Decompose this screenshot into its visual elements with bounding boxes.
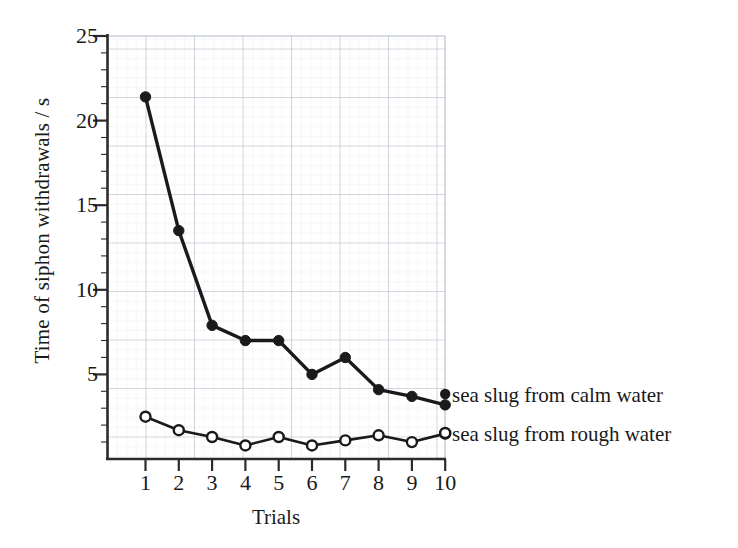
legend-entry-rough-water: sea slug from rough water [452,424,671,445]
y-axis-title: Time of siphon withdrawals / s [30,21,55,441]
x-tick-labels: 12345678910 [0,0,738,548]
legend-label-calm-water: sea slug from calm water [452,383,663,407]
chart-figure: 510152025 12345678910 Time of siphon wit… [0,0,738,548]
x-tick-label: 10 [423,472,467,494]
legend-label-rough-water: sea slug from rough water [452,422,671,446]
x-axis-title: Trials [106,505,446,530]
legend-entry-calm-water: sea slug from calm water [452,385,663,406]
